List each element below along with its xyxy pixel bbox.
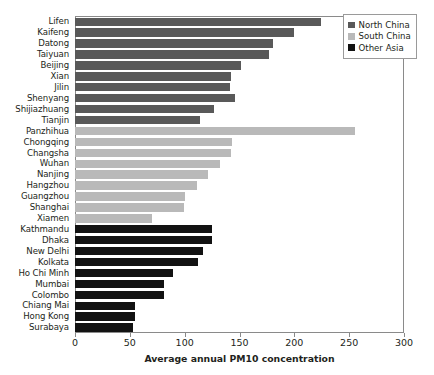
bar-row [75, 103, 404, 114]
bar [75, 291, 164, 299]
bar-row [75, 311, 404, 322]
category-label: Xian [0, 71, 72, 82]
legend-item: South China [348, 31, 411, 41]
category-label: Nanjing [0, 169, 72, 180]
category-label: Lifen [0, 16, 72, 27]
category-label: Kaifeng [0, 27, 72, 38]
bar-row [75, 322, 404, 333]
bar [75, 192, 185, 200]
bar [75, 149, 231, 157]
bar [75, 50, 269, 58]
bar [75, 302, 135, 310]
category-label: Guangzhou [0, 191, 72, 202]
chart-legend: North ChinaSouth ChinaOther Asia [343, 14, 417, 59]
bar-row [75, 191, 404, 202]
category-label: Surabaya [0, 322, 72, 333]
bar [75, 105, 214, 113]
bar-row [75, 245, 404, 256]
category-label: Ho Chi Minh [0, 267, 72, 278]
legend-label: North China [359, 20, 410, 30]
bar-row [75, 136, 404, 147]
legend-swatch-icon [348, 33, 355, 40]
bar-row [75, 256, 404, 267]
bar [75, 203, 184, 211]
bar [75, 236, 212, 244]
bar-row [75, 278, 404, 289]
legend-swatch-icon [348, 44, 355, 51]
category-label: Tianjin [0, 114, 72, 125]
category-label: Hong Kong [0, 311, 72, 322]
bar-row [75, 92, 404, 103]
bar [75, 323, 133, 331]
bar [75, 247, 203, 255]
category-label: Kathmandu [0, 224, 72, 235]
x-tick-label: 300 [395, 337, 413, 348]
bar-row [75, 180, 404, 191]
bar-row [75, 300, 404, 311]
bar [75, 127, 355, 135]
bar [75, 269, 173, 277]
legend-item: North China [348, 20, 411, 30]
bar-row [75, 169, 404, 180]
bar [75, 94, 235, 102]
category-label: Shijiazhuang [0, 103, 72, 114]
bar-row [75, 125, 404, 136]
legend-label: South China [359, 31, 411, 41]
bar [75, 312, 135, 320]
legend-item: Other Asia [348, 43, 411, 53]
x-tick-label: 0 [72, 337, 78, 348]
bar [75, 28, 294, 36]
bar-row [75, 267, 404, 278]
category-label: Datong [0, 38, 72, 49]
category-axis-labels: LifenKaifengDatongTaiyuanBeijingXianJili… [0, 16, 72, 333]
bar-row [75, 60, 404, 71]
bar [75, 83, 230, 91]
category-label: Jilin [0, 82, 72, 93]
category-label: New Delhi [0, 245, 72, 256]
bar-row [75, 158, 404, 169]
bar [75, 160, 220, 168]
bar [75, 72, 231, 80]
bar [75, 138, 232, 146]
category-label: Kolkata [0, 256, 72, 267]
legend-swatch-icon [348, 22, 355, 29]
bar [75, 61, 241, 69]
bar-row [75, 213, 404, 224]
bar [75, 280, 164, 288]
category-label: Chiang Mai [0, 300, 72, 311]
x-tick-label: 100 [176, 337, 194, 348]
x-tick-label: 200 [285, 337, 303, 348]
bar [75, 116, 200, 124]
category-label: Beijing [0, 60, 72, 71]
bar-series-container [75, 16, 404, 333]
bar-row [75, 71, 404, 82]
bar-row [75, 289, 404, 300]
category-label: Changsha [0, 147, 72, 158]
category-label: Mumbai [0, 278, 72, 289]
category-label: Wuhan [0, 158, 72, 169]
pm10-bar-chart: LifenKaifengDatongTaiyuanBeijingXianJili… [0, 0, 434, 375]
category-label: Shenyang [0, 92, 72, 103]
x-axis-title: Average annual PM10 concentration [75, 353, 404, 364]
bar-row [75, 234, 404, 245]
bar-row [75, 202, 404, 213]
bar-row [75, 82, 404, 93]
bar [75, 225, 212, 233]
bar-row [75, 114, 404, 125]
bar [75, 39, 273, 47]
x-axis-tick-labels: 050100150200250300 [0, 337, 434, 351]
bar [75, 258, 198, 266]
bar-row [75, 224, 404, 235]
legend-label: Other Asia [359, 43, 404, 53]
category-label: Panzhihua [0, 125, 72, 136]
category-label: Taiyuan [0, 49, 72, 60]
x-tick-label: 250 [340, 337, 358, 348]
x-tick-label: 150 [230, 337, 248, 348]
bar [75, 214, 152, 222]
category-label: Shanghai [0, 202, 72, 213]
bar [75, 170, 208, 178]
bar [75, 18, 321, 26]
category-label: Dhaka [0, 234, 72, 245]
category-label: Xiamen [0, 213, 72, 224]
bar-row [75, 147, 404, 158]
